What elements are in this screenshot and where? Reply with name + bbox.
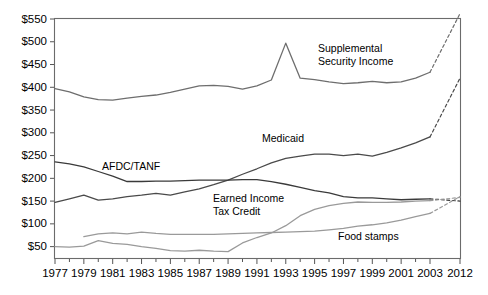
x-axis-tick-label: 1995 — [302, 267, 328, 279]
x-axis-tick-label: 1983 — [129, 267, 155, 279]
y-axis-tick-label: $500 — [21, 35, 47, 47]
y-axis-tick-label: $50 — [28, 240, 47, 252]
x-axis-tick-label: 1991 — [244, 267, 270, 279]
series-annotation: Tax Credit — [213, 205, 260, 217]
series-projection-food-stamps — [430, 197, 460, 214]
x-axis-tick-label: 1989 — [215, 267, 241, 279]
series-annotation: Food stamps — [338, 230, 399, 242]
y-axis-tick-label: $200 — [21, 172, 47, 184]
plot-frame — [55, 19, 461, 259]
series-annotation: Security Income — [318, 55, 393, 67]
x-axis-tick-label: 2012 — [447, 267, 473, 279]
series-annotation: AFDC/TANF — [102, 160, 160, 172]
x-axis-tick-label: 1981 — [100, 267, 126, 279]
spending-per-capita-line-chart: $50$100$150$200$250$300$350$400$450$500$… — [0, 0, 488, 295]
y-axis-tick-label: $450 — [21, 58, 47, 70]
y-axis-tick-label: $250 — [21, 149, 47, 161]
x-axis-tick-label: 1999 — [360, 267, 386, 279]
series-annotation: Supplemental — [318, 42, 382, 54]
x-axis-tick-label: 1993 — [273, 267, 299, 279]
x-axis-tick-label: 1985 — [158, 267, 184, 279]
y-axis-tick-label: $550 — [21, 13, 47, 25]
y-axis-tick-label: $300 — [21, 126, 47, 138]
x-axis-tick-label: 1997 — [331, 267, 357, 279]
y-axis-tick-label: $400 — [21, 81, 47, 93]
y-axis-tick-label: $100 — [21, 217, 47, 229]
x-axis-tick-label: 1979 — [71, 267, 97, 279]
series-annotation-group: SupplementalSecurity IncomeMedicaidAFDC/… — [102, 42, 399, 242]
x-axis-tick-label: 1977 — [42, 267, 68, 279]
chart-container: $50$100$150$200$250$300$350$400$450$500$… — [0, 0, 488, 295]
series-projection-medicaid — [430, 78, 460, 137]
y-axis-label-group: $50$100$150$200$250$300$350$400$450$500$… — [21, 13, 47, 253]
x-axis-tick-label: 2003 — [417, 267, 443, 279]
x-axis-tick-label: 1987 — [186, 267, 212, 279]
x-axis-label-group: 1977197919811983198519871989199119931995… — [42, 267, 473, 279]
y-axis-tick-label: $150 — [21, 195, 47, 207]
series-projection-supplemental-security-income — [430, 14, 460, 73]
series-annotation: Earned Income — [213, 192, 284, 204]
series-annotation: Medicaid — [262, 132, 304, 144]
x-axis-tick-label: 2001 — [388, 267, 414, 279]
y-axis-tick-label: $350 — [21, 104, 47, 116]
